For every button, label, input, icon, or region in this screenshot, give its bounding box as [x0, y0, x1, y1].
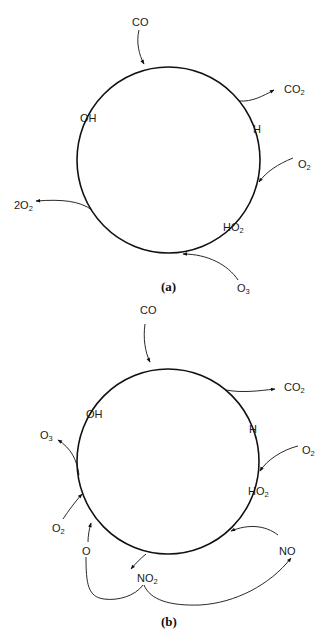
panel-a-h-label: H	[253, 123, 261, 135]
panel-a-caption: (a)	[161, 280, 176, 294]
panel-b-o2-right-input-arrow	[260, 446, 298, 471]
panel-b-no2-label: NO2	[137, 572, 158, 584]
panel-b-no2-to-no-curve	[144, 558, 291, 605]
panel-b-diagram	[58, 324, 298, 605]
panel-b-o3-label: O3	[40, 429, 53, 441]
panel-b-o-label: O	[82, 545, 91, 557]
panel-a-co-input-arrow	[138, 30, 144, 64]
panel-b-no2-output-arrow	[131, 554, 146, 569]
panel-a-co2-output-arrow	[239, 90, 274, 101]
panel-b-caption: (b)	[161, 615, 177, 629]
panel-a-2o2-label: 2O2	[14, 199, 33, 211]
panel-b-o-input-arrow	[88, 523, 91, 542]
panel-b-no-label: NO	[279, 545, 296, 557]
panel-b-ho2-label: HO2	[248, 485, 269, 497]
panel-a-diagram	[36, 30, 293, 280]
panel-b-o2-right-label: O2	[302, 444, 315, 456]
panel-a-oh-label: OH	[80, 112, 97, 124]
panel-a-2o2-output-arrow	[36, 200, 92, 210]
panel-b-o2-left-input-arrow	[63, 494, 82, 519]
panel-b-o2-left-label: O2	[52, 522, 65, 534]
panel-a-o3-input-arrow	[183, 254, 238, 280]
panel-a-co-label: CO	[132, 16, 149, 28]
diagram-canvas	[0, 0, 329, 636]
panel-a-o2-label: O2	[298, 158, 311, 170]
panel-b-co2-label: CO2	[284, 381, 305, 393]
panel-b-co-input-arrow	[144, 324, 150, 362]
panel-a-co2-label: CO2	[284, 83, 305, 95]
panel-b-h-label: H	[249, 423, 257, 435]
panel-b-cycle-circle	[77, 369, 259, 554]
panel-b-o3-output-arrow	[58, 440, 79, 475]
reaction-cycle-figure: CO CO2 OH H O2 2O2 HO2 O3 (a) CO CO2 OH …	[0, 0, 329, 636]
panel-a-o2-input-arrow	[259, 158, 293, 182]
panel-b-no2-to-o-curve	[86, 557, 143, 599]
panel-b-oh-label: OH	[86, 408, 103, 420]
panel-b-no-input-arrow	[231, 526, 278, 535]
panel-a-ho2-label: HO2	[223, 221, 244, 233]
panel-b-co-label: CO	[140, 304, 157, 316]
panel-b-co2-output-arrow	[226, 389, 275, 392]
panel-a-o3-label: O3	[237, 282, 250, 294]
